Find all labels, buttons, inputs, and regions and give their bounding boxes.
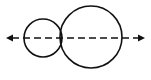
two-tangent-circles-diagram [0,0,151,80]
diagram-background [0,0,151,80]
diagram-canvas [0,0,151,80]
